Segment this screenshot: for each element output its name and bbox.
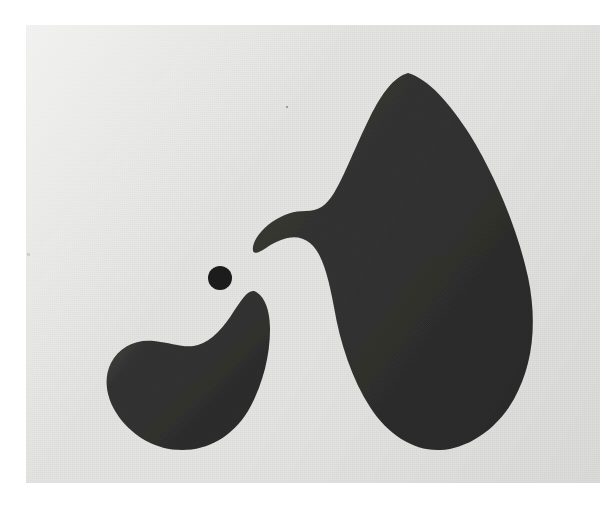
small-dot-form [208, 266, 232, 290]
photo-page [0, 0, 616, 515]
speck-upper-icon [286, 106, 288, 108]
artwork-canvas [26, 25, 600, 483]
speck-left-margin-icon [27, 253, 30, 256]
photographic-print [26, 25, 600, 483]
surface-striations [107, 73, 533, 450]
